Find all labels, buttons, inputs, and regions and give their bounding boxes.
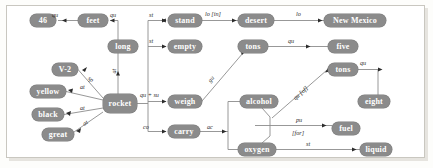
edge-label-feet-46: qu <box>52 12 58 18</box>
node-label: weigh <box>175 98 196 106</box>
node-label: tons <box>245 43 260 51</box>
node-fuel[interactable]: fuel <box>332 122 360 135</box>
node-new-mexico[interactable]: New Mexico <box>324 14 386 27</box>
edge-label-carry-mix: ac <box>207 124 213 130</box>
edge-label-rocket-black: at <box>80 105 85 111</box>
node-label: five <box>336 43 349 51</box>
node-label: carry <box>174 128 194 136</box>
edge-label-oxygen-liquid: st <box>306 141 310 147</box>
node-label: liquid <box>365 146 386 154</box>
node-stand[interactable]: stand <box>168 14 202 27</box>
node-label: rocket <box>109 100 132 108</box>
node-label: great <box>49 131 68 139</box>
node-black[interactable]: black <box>32 108 64 121</box>
node-label: stand <box>175 17 195 25</box>
node-oxygen[interactable]: oxygen <box>238 143 276 156</box>
edge-label-fuel-for: [for] <box>292 130 304 136</box>
node-eight[interactable]: eight <box>358 95 390 108</box>
edge-label-fuel-pu: pu <box>296 117 302 123</box>
node-label: eight <box>365 98 383 106</box>
edge-label-tons-five: qu <box>288 38 294 44</box>
node-tons-top[interactable]: tons <box>238 40 268 53</box>
edge-label-desert-newmexico: lo <box>296 11 301 17</box>
edge-label-rocket-weigh: qu + su <box>140 92 159 98</box>
node-label: yellow <box>37 88 60 96</box>
edge-label-rocket-yellow: at <box>80 84 85 90</box>
node-yellow[interactable]: yellow <box>30 85 66 98</box>
edge-label-long-feet: qu <box>110 12 116 18</box>
node-label: feet <box>86 17 99 25</box>
edge-label-stand-desert: lo [in] <box>205 11 221 17</box>
node-label: alcohol <box>246 98 272 106</box>
node-label: oxygen <box>244 146 269 154</box>
node-great[interactable]: great <box>42 128 74 141</box>
node-label: V-2 <box>59 66 71 74</box>
node-weigh[interactable]: weigh <box>168 95 202 108</box>
node-label: desert <box>245 17 267 25</box>
node-carry[interactable]: carry <box>168 125 200 138</box>
node-label: black <box>38 111 58 119</box>
node-label: tons <box>335 66 350 74</box>
node-tons-right[interactable]: tons <box>328 63 358 76</box>
edge-label-trunk-stand: st <box>149 12 153 18</box>
edge-label-rocket-carry: co <box>143 124 149 130</box>
node-desert[interactable]: desert <box>238 14 274 27</box>
node-five[interactable]: five <box>328 40 358 53</box>
node-label: fuel <box>339 125 353 133</box>
node-empty[interactable]: empty <box>168 40 202 53</box>
diagram-canvas: 46 feet long stand desert New Mexico emp… <box>0 0 433 168</box>
edge-label-trunk-empty: st <box>149 38 153 44</box>
node-label: New Mexico <box>333 17 377 25</box>
node-v2[interactable]: V-2 <box>52 63 78 76</box>
node-feet[interactable]: feet <box>78 14 108 27</box>
node-long[interactable]: long <box>108 40 138 53</box>
node-rocket[interactable]: rocket <box>103 94 137 113</box>
node-label: long <box>115 43 130 51</box>
node-alcohol[interactable]: alcohol <box>240 95 278 108</box>
node-liquid[interactable]: liquid <box>360 143 392 156</box>
edge-label-tons-eight: qu <box>360 60 366 66</box>
node-label: 46 <box>39 17 47 25</box>
edge-label-rocket-long: at <box>111 69 117 74</box>
node-label: empty <box>174 43 196 51</box>
